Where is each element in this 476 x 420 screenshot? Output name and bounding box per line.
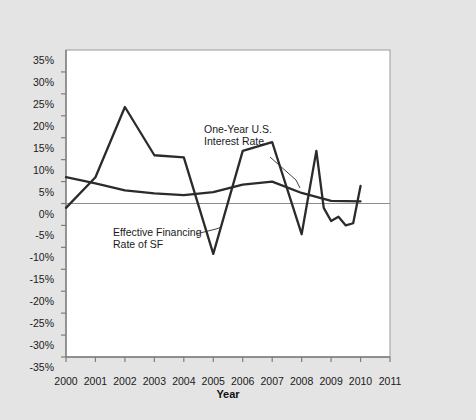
x-axis-ticks <box>66 357 390 362</box>
y-axis-ticks <box>61 72 66 357</box>
y-tick-label: -20% <box>10 296 54 306</box>
y-tick-label: -15% <box>10 274 54 284</box>
y-tick-label: -5% <box>10 230 54 240</box>
x-tick-label: 2011 <box>372 376 408 387</box>
annotation-line-1: One-Year U.S. <box>204 123 314 135</box>
y-tick-label: 20% <box>10 121 54 131</box>
data-line <box>66 177 361 201</box>
y-tick-label: -25% <box>10 318 54 328</box>
y-tick-label: 25% <box>10 99 54 109</box>
y-tick-label: -30% <box>10 340 54 350</box>
annotation-line-2: Interest Rate <box>204 135 314 147</box>
x-axis-title: Year <box>0 388 456 400</box>
y-tick-label: -10% <box>10 252 54 262</box>
y-tick-label: -35% <box>10 362 54 372</box>
annotation-line-2: Rate of SF <box>113 238 233 250</box>
chart-svg <box>0 10 476 420</box>
y-tick-label: 30% <box>10 77 54 87</box>
y-tick-label: 35% <box>10 55 54 65</box>
y-tick-label: 15% <box>10 143 54 153</box>
chart-container: 35%30%25%20%15%10%5%0%-5%-10%-15%-20%-25… <box>0 10 476 420</box>
annotation-line-1: Effective Financing <box>113 226 233 238</box>
y-tick-label: 0% <box>10 209 54 219</box>
annotation-effective-financing-rate-of-sf: Effective Financing Rate of SF <box>113 226 233 250</box>
annotation-one-year-us-interest-rate: One-Year U.S. Interest Rate <box>204 123 314 147</box>
top-caption <box>0 0 476 10</box>
y-tick-label: 5% <box>10 187 54 197</box>
y-tick-label: 10% <box>10 165 54 175</box>
